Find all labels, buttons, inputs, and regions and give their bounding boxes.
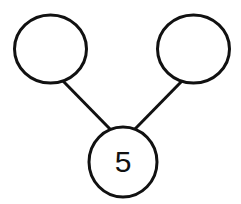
connector-left: [63, 81, 110, 129]
whole-value: 5: [88, 126, 158, 198]
part-circle-right[interactable]: [158, 15, 230, 83]
part-circle-left[interactable]: [15, 15, 87, 83]
connector-right: [135, 81, 182, 129]
